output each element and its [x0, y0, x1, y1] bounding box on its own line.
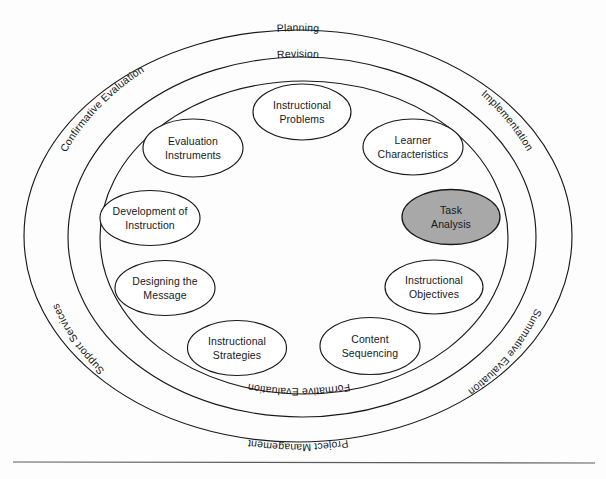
- ring-label-revision: Revision: [276, 47, 319, 60]
- ring-label-revision-text: Revision: [276, 47, 319, 60]
- ring-label-summative-evaluation: Summative Evaluation: [466, 307, 544, 398]
- designing-the-message-label-line2: Message: [143, 289, 186, 301]
- instructional-design-model-figure: Planning Revision Confirmative Evaluatio…: [0, 0, 606, 479]
- task-analysis-label-line1: Task: [440, 204, 463, 216]
- content-sequencing-label-line2: Sequencing: [342, 347, 399, 359]
- instructional-problems-label-line1: Instructional: [273, 99, 331, 111]
- designing-the-message-label-line1: Designing the: [132, 275, 198, 287]
- core-element-instructional-strategies[interactable]: Instructional Strategies: [188, 321, 287, 376]
- core-element-instructional-objectives[interactable]: Instructional Objectives: [385, 260, 483, 314]
- instructional-objectives-label-line2: Objectives: [409, 288, 459, 300]
- footer-divider-rule: [13, 462, 595, 463]
- task-analysis-label-line2: Analysis: [431, 218, 471, 230]
- ring-label-summative-evaluation-text: Summative Evaluation: [466, 307, 544, 398]
- ring-label-planning: Planning: [276, 21, 320, 34]
- learner-characteristics-label-line2: Characteristics: [378, 148, 449, 160]
- ring-label-project-management: Project Management: [247, 438, 349, 454]
- ring-label-formative-evaluation: Formative Evaluation: [247, 382, 352, 399]
- ring-label-confirmative-evaluation: Confirmative Evaluation: [57, 63, 145, 154]
- model-diagram-canvas: Planning Revision Confirmative Evaluatio…: [0, 0, 606, 479]
- core-element-instructional-problems[interactable]: Instructional Problems: [253, 84, 351, 140]
- evaluation-instruments-label-line1: Evaluation: [168, 135, 218, 147]
- development-of-instruction-label-line2: Instruction: [125, 219, 175, 231]
- ring-label-confirmative-evaluation-text: Confirmative Evaluation: [57, 63, 145, 154]
- instructional-objectives-label-line1: Instructional: [405, 274, 463, 286]
- ring-label-formative-evaluation-text: Formative Evaluation: [247, 382, 352, 399]
- ring-label-support-services: Support Services: [49, 302, 106, 377]
- content-sequencing-label-line1: Content: [351, 333, 388, 345]
- core-element-designing-the-message[interactable]: Designing the Message: [115, 261, 215, 316]
- learner-characteristics-label-line1: Learner: [395, 134, 432, 146]
- core-element-content-sequencing[interactable]: Content Sequencing: [320, 318, 420, 375]
- ring-label-implementation: Implementation: [479, 87, 536, 152]
- instructional-strategies-label-line2: Strategies: [213, 349, 261, 361]
- ring-label-implementation-text: Implementation: [479, 87, 536, 152]
- core-element-learner-characteristics[interactable]: Learner Characteristics: [363, 119, 463, 175]
- ring-label-project-management-text: Project Management: [247, 438, 349, 454]
- core-elements-group: Instructional Problems Learner Character…: [100, 84, 500, 376]
- instructional-strategies-label-line1: Instructional: [208, 335, 266, 347]
- ring-label-support-services-text: Support Services: [49, 302, 106, 377]
- core-element-task-analysis[interactable]: Task Analysis: [402, 190, 500, 245]
- core-element-evaluation-instruments[interactable]: Evaluation Instruments: [143, 119, 243, 177]
- evaluation-instruments-label-line2: Instruments: [165, 149, 221, 161]
- ring-label-planning-text: Planning: [276, 21, 320, 34]
- core-element-development-of-instruction[interactable]: Development of Instruction: [100, 191, 200, 246]
- development-of-instruction-label-line1: Development of: [113, 205, 188, 217]
- instructional-problems-label-line2: Problems: [279, 113, 324, 125]
